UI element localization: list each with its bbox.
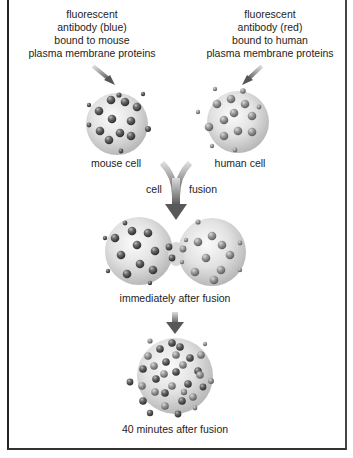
label-line: antibody (blue) xyxy=(22,21,162,34)
label-line: fluorescent xyxy=(200,8,340,21)
fusion-label-left: cell xyxy=(142,183,166,196)
human-pointer-arrow-icon xyxy=(242,66,262,85)
label-line: plasma membrane proteins xyxy=(22,47,162,60)
cell-fusion-diagram xyxy=(0,0,353,458)
immediate-stage-label: immediately after fusion xyxy=(105,292,245,305)
mixed-cell xyxy=(127,338,214,417)
human-antibody-label: fluorescent antibody (red) bound to huma… xyxy=(200,8,340,60)
mouse-antibody-label: fluorescent antibody (blue) bound to mou… xyxy=(22,8,162,60)
human-cell xyxy=(196,87,269,153)
label-line: fluorescent xyxy=(22,8,162,21)
human-cell-label: human cell xyxy=(200,157,280,170)
time-arrow-icon xyxy=(166,312,184,334)
fusion-label-right: fusion xyxy=(185,183,221,196)
label-line: bound to mouse xyxy=(22,34,162,47)
label-line: antibody (red) xyxy=(200,21,340,34)
mouse-cell-label: mouse cell xyxy=(76,157,156,170)
label-line: bound to human xyxy=(200,34,340,47)
forty-minute-stage-label: 40 minutes after fusion xyxy=(105,423,245,436)
mouse-pointer-arrow-icon xyxy=(93,66,115,85)
label-line: plasma membrane proteins xyxy=(200,47,340,60)
mouse-cell xyxy=(86,92,151,155)
fused-cell-pair xyxy=(103,217,246,286)
